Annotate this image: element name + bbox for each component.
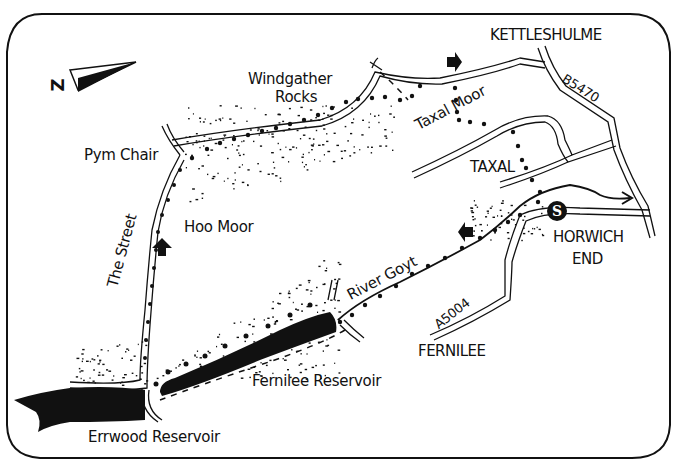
place-label-fernilee: FERNILEE [418,344,485,359]
place-label-rocks: Rocks [275,90,317,105]
direction-arrow-north-icon [447,52,462,72]
place-label-hoo-moor: Hoo Moor [184,220,253,235]
direction-arrow-up-icon [152,238,172,256]
place-label-windgather: Windgather [248,72,332,87]
north-arrow-icon [70,62,136,92]
place-label-end: END [572,252,603,267]
place-label-taxal: TAXAL [470,160,515,175]
compass-north-label: Z [49,79,67,92]
place-label-kettleshulme: KETTLESHULME [490,28,602,43]
direction-arrow-west-icon [458,222,473,242]
water-label-errwood-reservoir: Errwood Reservoir [88,430,220,445]
place-label-horwich: HORWICH [553,230,623,245]
start-marker-label: S [552,203,562,219]
water-label-fernilee-reservoir: Fernilee Reservoir [252,374,381,389]
errwood-reservoir [14,387,145,432]
place-label-pym-chair: Pym Chair [84,148,158,163]
